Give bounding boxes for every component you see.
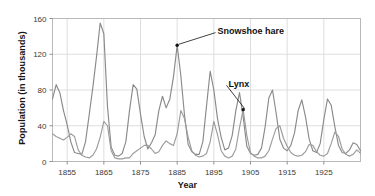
x-tick-label: 1885 [168, 168, 186, 177]
y-axis-title: Population (in thousands) [17, 13, 27, 163]
y-tick-label: 80 [38, 86, 47, 95]
annotation-label: Snowshoe hare [218, 26, 285, 36]
chart-figure: 04080120160 1855186518751885189519051915… [0, 0, 375, 196]
x-tick-label: 1855 [58, 168, 76, 177]
annotation-point-marker [175, 44, 178, 47]
y-tick-label: 160 [33, 15, 47, 24]
y-tick-label: 120 [33, 50, 47, 59]
x-axis-title: Year [0, 180, 375, 190]
y-tick-label: 0 [42, 158, 47, 167]
x-tick-label: 1875 [132, 168, 150, 177]
annotation-point-marker [241, 108, 244, 111]
x-tick-label: 1915 [278, 168, 296, 177]
x-tick-label: 1895 [205, 168, 223, 177]
x-tick-label: 1865 [95, 168, 113, 177]
annotation-label: Lynx [229, 79, 250, 89]
x-tick-label: 1925 [315, 168, 333, 177]
x-tick-label: 1905 [242, 168, 260, 177]
hare-lynx-line-chart: 04080120160 1855186518751885189519051915… [0, 0, 375, 196]
y-tick-label: 40 [38, 122, 47, 131]
